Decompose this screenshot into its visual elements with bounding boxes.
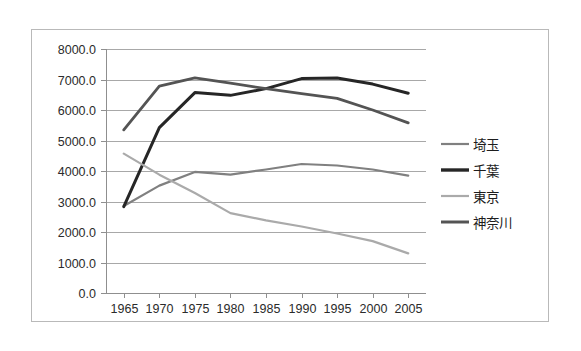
y-axis-labels: 8000.07000.06000.05000.04000.03000.02000…: [58, 43, 96, 301]
legend-label-2: 東京: [473, 189, 499, 205]
line-chart: 8000.07000.06000.05000.04000.03000.02000…: [32, 30, 548, 321]
y-axis-tick-label: 0.0: [79, 287, 96, 301]
series-line-0: [124, 164, 408, 206]
x-axis-tick-label: 1990: [289, 302, 317, 316]
chart-legend: 埼玉千葉東京神奈川: [441, 137, 512, 231]
x-axis-tick-label: 1975: [182, 302, 210, 316]
legend-label-1: 千葉: [473, 163, 500, 179]
x-axis-tick-label: 1970: [146, 302, 174, 316]
y-axis-tick-label: 7000.0: [58, 74, 96, 88]
y-axis-tick-label: 6000.0: [58, 104, 96, 118]
y-axis-tick-label: 1000.0: [58, 257, 96, 271]
y-axis-tick-label: 2000.0: [58, 226, 96, 240]
y-axis-tick-label: 5000.0: [58, 135, 96, 149]
x-axis-tick-label: 1985: [253, 302, 281, 316]
legend-label-0: 埼玉: [473, 137, 499, 153]
x-axis-tick-label: 1980: [217, 302, 245, 316]
x-axis-tick-label: 1965: [111, 302, 139, 316]
y-axis-tickmarks: [101, 50, 106, 294]
y-axis-tick-label: 4000.0: [58, 165, 96, 179]
x-axis-labels: 196519701975198019851990199520002005: [111, 302, 423, 316]
y-axis-tick-label: 3000.0: [58, 196, 96, 210]
x-axis-tick-label: 1995: [324, 302, 352, 316]
legend-label-3: 神奈川: [473, 215, 512, 231]
chart-frame: 8000.07000.06000.05000.04000.03000.02000…: [31, 29, 549, 322]
x-axis-tick-label: 2005: [395, 302, 423, 316]
x-axis-tick-label: 2000: [360, 302, 388, 316]
y-axis-tick-label: 8000.0: [58, 43, 96, 57]
series-line-1: [124, 78, 408, 207]
data-series: [124, 78, 408, 253]
